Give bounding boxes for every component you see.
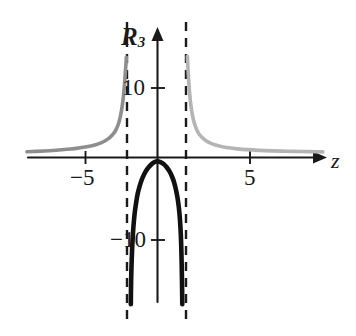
y-tick-label-neg10: −10 <box>110 228 146 251</box>
x-axis-label: z <box>331 150 340 172</box>
y-axis-label-base: R <box>121 23 138 50</box>
y-axis-label-subscript: 3 <box>138 34 146 50</box>
plot-area <box>0 0 356 336</box>
chart-figure: R3 z 10 −10 −5 5 <box>0 0 356 336</box>
y-axis-label: R3 <box>121 24 145 50</box>
curve-right-outer-branch <box>187 56 322 151</box>
x-tick-label-neg5: −5 <box>70 166 94 189</box>
x-tick-label-5: 5 <box>244 166 256 189</box>
y-axis-arrowhead <box>152 27 164 41</box>
y-tick-label-10: 10 <box>122 76 145 99</box>
curve-left-outer-branch <box>27 57 126 152</box>
